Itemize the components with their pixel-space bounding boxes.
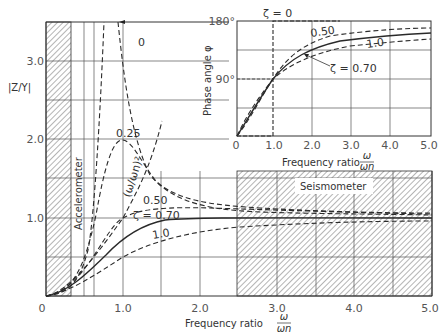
label-zeta-0: 0 — [138, 36, 145, 49]
inset-y-label: Phase angle φ — [202, 45, 213, 116]
inset-y-tick: 90° — [216, 73, 236, 86]
inset-x-label-den: ωn — [360, 161, 375, 172]
main-y-ticks: 1.0 2.0 3.0 — [27, 55, 45, 225]
figure: 0 1.0 2.0 3.0 4.0 5.0 1.0 2.0 3.0 |Z/Y| … — [0, 0, 444, 335]
inset-x-label-text: Frequency ratio — [282, 157, 360, 168]
inset-y-tick: 180° — [209, 15, 236, 28]
inset-x-tick: 1.0 — [265, 139, 283, 152]
x-tick: 5.0 — [421, 302, 439, 315]
inset-x-tick: 2.0 — [303, 139, 321, 152]
label-zeta-050: 0.50 — [143, 194, 168, 207]
inset-x-tick: 0 — [233, 139, 240, 152]
main-x-label-den: ωn — [277, 323, 292, 334]
inset-x-tick: 4.0 — [381, 139, 399, 152]
inset-x-tick: 3.0 — [342, 139, 360, 152]
main-x-ticks: 0 1.0 2.0 3.0 4.0 5.0 — [39, 302, 439, 315]
label-zeta-10: 1.0 — [151, 226, 170, 242]
label-zeta-070: ζ = 0.70 — [133, 209, 180, 222]
y-tick: 2.0 — [27, 133, 45, 146]
resonance-arrow-icon — [119, 20, 125, 24]
label-omega-squared: (ω/ωn)² — [120, 155, 145, 199]
inset-label-zeta-070: ζ = 0.70 — [330, 62, 377, 75]
seismometer-label: Seismometer — [300, 181, 367, 192]
x-tick: 4.0 — [345, 302, 363, 315]
y-tick: 3.0 — [27, 55, 45, 68]
inset-x-tick: 5.0 — [420, 139, 438, 152]
label-zeta-025: 0.25 — [116, 127, 141, 140]
x-tick: 0 — [39, 302, 46, 315]
inset-x-label-num: ω — [363, 150, 371, 161]
main-x-label-num: ω — [280, 311, 288, 322]
x-tick: 2.0 — [191, 302, 209, 315]
main-x-label-text: Frequency ratio — [185, 318, 263, 329]
inset-label-zeta-10: 1.0 — [366, 36, 385, 51]
main-y-label: |Z/Y| — [8, 82, 31, 94]
inset-label-zeta-0: ζ = 0 — [263, 7, 292, 20]
accelerometer-region — [46, 22, 71, 296]
y-tick: 1.0 — [27, 212, 45, 225]
x-tick: 1.0 — [114, 302, 132, 315]
accelerometer-label: Accelerometer — [73, 156, 84, 230]
